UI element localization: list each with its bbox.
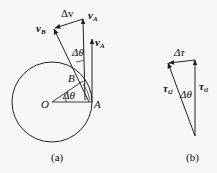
vector-delta-tau [169, 60, 195, 63]
label-delta-theta-center: Δθ [62, 89, 75, 101]
figure-a: vB Δv vA vA Δθ B Δθ O A (a) [12, 7, 105, 164]
label-vA-small: vA [95, 36, 105, 50]
label-tau-t2: τt2 [163, 82, 173, 95]
label-delta-v: Δv [61, 7, 74, 19]
caption-b: (b) [186, 151, 199, 164]
vector-delta-v [55, 19, 83, 28]
velocity-diagram: vB Δv vA vA Δθ B Δθ O A (a) Δτ τt2 Δθ τt… [0, 0, 217, 173]
caption-a: (a) [51, 151, 64, 164]
angle-arc-top [76, 60, 84, 62]
label-vB: vB [36, 22, 46, 36]
label-vA-top: vA [88, 9, 98, 23]
label-tau-t1: τt1 [199, 80, 209, 93]
label-point-O: O [41, 98, 49, 110]
label-point-B: B [68, 72, 75, 84]
vector-vA-large [83, 19, 85, 100]
label-delta-theta-top: Δθ [71, 46, 84, 58]
label-delta-tau: Δτ [173, 46, 185, 58]
label-delta-theta-b: Δθ [179, 88, 192, 100]
figure-b: Δτ τt2 Δθ τt1 (b) [163, 46, 209, 164]
label-point-A: A [93, 98, 101, 110]
